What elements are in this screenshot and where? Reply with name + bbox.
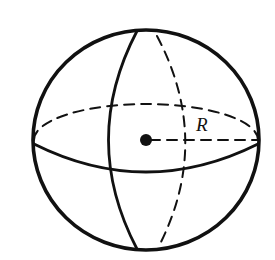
center-point xyxy=(140,134,152,146)
meridian-front-solid xyxy=(109,31,138,249)
radius-label: R xyxy=(195,114,208,135)
equator-front-solid xyxy=(34,144,258,172)
sphere-diagram: R xyxy=(0,0,275,260)
